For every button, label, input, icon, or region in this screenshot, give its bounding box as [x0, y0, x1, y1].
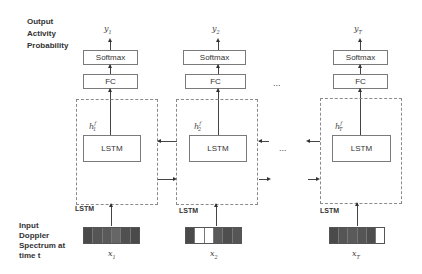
arrow-up-icon	[216, 64, 220, 68]
fc-box: FC	[83, 74, 138, 89]
spectrum-cell	[223, 228, 232, 243]
spectrum-cell	[131, 228, 139, 243]
arrow-left-icon	[306, 139, 310, 143]
spectrum-cell	[103, 228, 112, 243]
spectrum-cell	[186, 228, 195, 243]
input-label: Input Doppler Spectrum at time t	[19, 221, 65, 261]
input-x1: x1	[108, 249, 116, 260]
fc-box: FC	[185, 74, 246, 89]
arrow-left-icon	[258, 139, 262, 143]
arrow-up-icon	[358, 64, 362, 68]
spectrum-cell	[339, 228, 348, 243]
arrow-line	[357, 203, 358, 226]
spectrum-cell	[348, 228, 357, 243]
softmax-box: Softmax	[83, 50, 138, 65]
spectrum-cell	[376, 228, 384, 243]
hidden-state-label: hfT	[335, 122, 342, 131]
spectrum-cell	[84, 228, 93, 243]
arrow-up-icon	[216, 38, 220, 42]
arrow-up-icon	[355, 202, 359, 206]
lstm-layer-tag: LSTM	[320, 207, 339, 214]
spectrum-cell	[367, 228, 376, 243]
spectrum-cell	[205, 228, 214, 243]
input-label-line: Spectrum at	[19, 241, 65, 251]
spectrum-cell	[330, 228, 339, 243]
output-yT: yT	[354, 24, 362, 35]
spectrum-cell	[233, 228, 241, 243]
ellipsis-fc: ...	[273, 78, 281, 88]
input-label-line: time t	[19, 251, 65, 261]
arrow-up-icon	[358, 88, 362, 92]
input-spectrum-bar	[83, 227, 140, 244]
lstm-cell: LSTM	[332, 135, 391, 162]
lstm-cell: LSTM	[189, 135, 247, 162]
spectrum-cell	[93, 228, 102, 243]
softmax-box: Softmax	[333, 50, 388, 65]
input-spectrum-bar	[185, 227, 242, 244]
arrow-line	[111, 204, 112, 226]
input-label-line: Input	[19, 221, 65, 231]
output-label: Output Activity Probability	[27, 17, 68, 51]
input-label-line: Doppler	[19, 231, 65, 241]
arrow-line	[216, 204, 217, 226]
hidden-state-label: hf2	[194, 122, 201, 131]
output-y2: y2	[212, 24, 220, 35]
fc-box: FC	[333, 74, 388, 89]
output-y1: y1	[104, 24, 112, 35]
output-label-line: Activity	[27, 29, 68, 39]
spectrum-cell	[358, 228, 367, 243]
arrow-up-icon	[214, 203, 218, 207]
output-label-line: Probability	[27, 41, 68, 51]
arrow-up-icon	[108, 38, 112, 42]
input-xT: xT	[352, 249, 360, 260]
arrow-up-icon	[109, 203, 113, 207]
hidden-state-label: hf1	[89, 122, 96, 131]
arrow-up-icon	[216, 88, 220, 92]
spectrum-cell	[121, 228, 130, 243]
arrow-up-icon	[108, 88, 112, 92]
lstm-layer-tag: LSTM	[75, 205, 94, 212]
lstm-layer-tag: LSTM	[179, 207, 198, 214]
lstm-cell: LSTM	[83, 135, 141, 162]
arrow-left-icon	[157, 139, 161, 143]
arrow-up-icon	[108, 64, 112, 68]
arrow-up-icon	[358, 38, 362, 42]
input-x2: x2	[210, 249, 218, 260]
input-spectrum-bar	[329, 227, 385, 244]
ellipsis-recurrent: ...	[279, 143, 287, 153]
spectrum-cell	[195, 228, 204, 243]
arrow-right-icon	[267, 177, 271, 181]
spectrum-cell	[214, 228, 223, 243]
softmax-box: Softmax	[183, 50, 246, 65]
output-label-line: Output	[27, 17, 68, 27]
spectrum-cell	[112, 228, 121, 243]
